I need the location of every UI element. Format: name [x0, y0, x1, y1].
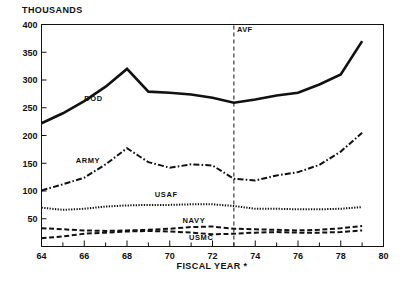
series-line-usaf: [42, 204, 363, 210]
series-line-dod: [42, 41, 363, 123]
series-lines: [42, 41, 363, 238]
x-axis-title: FISCAL YEAR *: [177, 261, 248, 271]
series-label-navy: NAVY: [183, 216, 206, 225]
series-label-usaf: USAF: [155, 190, 178, 199]
y-tick-label-150: 150: [22, 159, 37, 169]
x-tick-label-78: 78: [336, 251, 346, 261]
x-tick-label-76: 76: [293, 251, 303, 261]
x-axis-ticks: 646668707274767880: [36, 241, 388, 261]
x-tick-label-66: 66: [79, 251, 89, 261]
chart-container: THOUSANDS 50100150200250300350400 646668…: [0, 0, 400, 283]
y-tick-label-200: 200: [22, 131, 37, 141]
x-tick-label-68: 68: [122, 251, 132, 261]
y-tick-label-300: 300: [22, 75, 37, 85]
x-tick-label-80: 80: [378, 251, 388, 261]
y-tick-label-350: 350: [22, 48, 37, 58]
y-tick-label-100: 100: [22, 186, 37, 196]
avf-annotation: AVF: [234, 25, 253, 246]
y-axis-title: THOUSANDS: [22, 5, 83, 15]
series-label-army: ARMY: [76, 156, 100, 165]
plot-frame: [42, 25, 384, 247]
x-tick-label-70: 70: [165, 251, 175, 261]
y-tick-label-50: 50: [27, 214, 37, 224]
y-tick-label-250: 250: [22, 103, 37, 113]
series-label-usmc: USMC: [189, 233, 213, 242]
series-labels: DODARMYUSAFNAVYUSMC: [76, 94, 214, 242]
y-tick-label-400: 400: [22, 20, 37, 30]
series-line-navy: [42, 226, 363, 231]
x-tick-label-72: 72: [207, 251, 217, 261]
military-personnel-line-chart: THOUSANDS 50100150200250300350400 646668…: [0, 0, 400, 283]
x-tick-label-64: 64: [36, 251, 46, 261]
x-tick-label-74: 74: [250, 251, 260, 261]
series-label-dod: DOD: [84, 94, 102, 103]
avf-label: AVF: [237, 25, 253, 34]
